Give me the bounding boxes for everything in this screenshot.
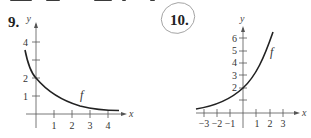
function-label: f bbox=[270, 45, 275, 59]
y-tick-label: 4 bbox=[232, 57, 237, 68]
y-tick-label: 6 bbox=[232, 33, 237, 44]
x-tick-label: 4 bbox=[106, 120, 111, 131]
curve-f bbox=[25, 50, 119, 111]
y-tick-label: 3 bbox=[232, 70, 237, 81]
x-tick-label: −3 bbox=[199, 118, 210, 129]
x-axis-arrow-icon bbox=[294, 111, 300, 115]
function-label: f bbox=[80, 88, 85, 102]
graph-10: −3 −2 −1 1 2 3 2 3 4 5 6 y x f bbox=[156, 0, 307, 129]
x-tick-label: 2 bbox=[268, 118, 273, 129]
x-tick-label: 3 bbox=[281, 118, 286, 129]
x-axis-label: x bbox=[301, 107, 307, 118]
y-tick-label: 5 bbox=[232, 45, 237, 56]
x-tick-label: 1 bbox=[52, 120, 57, 131]
y-tick-label: 2 bbox=[23, 73, 28, 84]
y-tick-label: 4 bbox=[23, 37, 28, 48]
graph-9: 1 2 3 4 1 2 4 y x f bbox=[23, 13, 134, 131]
graphs-canvas: 1 2 3 4 1 2 4 y x f bbox=[0, 0, 311, 138]
circle-mark bbox=[156, 0, 199, 39]
y-tick-label: 1 bbox=[23, 91, 28, 102]
x-tick-label: −1 bbox=[225, 118, 236, 129]
y-tick-label: 2 bbox=[232, 82, 237, 93]
x-axis-label: x bbox=[128, 108, 134, 119]
y-axis-arrow-icon bbox=[241, 26, 245, 32]
x-tick-label: 2 bbox=[70, 120, 75, 131]
x-tick-label: 1 bbox=[255, 118, 260, 129]
x-tick-label: −2 bbox=[212, 118, 223, 129]
y-axis-arrow-icon bbox=[34, 22, 38, 28]
x-tick-label: 3 bbox=[88, 120, 93, 131]
x-axis-arrow-icon bbox=[121, 112, 127, 116]
y-axis-label: y bbox=[239, 13, 245, 24]
y-axis-label: y bbox=[26, 13, 32, 24]
